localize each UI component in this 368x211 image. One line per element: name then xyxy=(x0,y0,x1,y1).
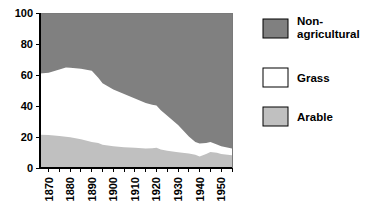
y-axis: 020406080100 xyxy=(15,7,40,174)
x-axis: 187018801890190019101920193019401950 xyxy=(40,168,232,201)
y-tick-label: 0 xyxy=(27,162,33,174)
y-tick-label: 100 xyxy=(15,7,33,19)
x-tick-label: 1870 xyxy=(43,177,55,201)
x-tick-label: 1940 xyxy=(194,177,206,201)
legend-item-label: Arable xyxy=(297,111,333,123)
x-tick-label: 1910 xyxy=(129,177,141,201)
legend-swatch-non-agricultural xyxy=(263,19,288,38)
x-tick-label: 1950 xyxy=(215,177,227,201)
y-tick-label: 80 xyxy=(21,38,33,50)
plot-area xyxy=(40,13,232,168)
x-tick-label: 1880 xyxy=(64,177,76,201)
legend-swatch-grass xyxy=(263,68,288,87)
y-axis-tick-labels: 020406080100 xyxy=(15,7,33,174)
legend-swatch-arable xyxy=(263,107,288,126)
x-axis-minor-ticks xyxy=(49,168,232,172)
legend-item-label: Non-agricultural xyxy=(297,15,360,40)
x-axis-tick-labels: 187018801890190019101920193019401950 xyxy=(43,177,228,201)
x-tick-label: 1900 xyxy=(107,177,119,201)
legend-item: Grass xyxy=(263,68,330,87)
legend-item: Arable xyxy=(263,107,333,126)
y-tick-label: 20 xyxy=(21,131,33,143)
x-tick-label: 1890 xyxy=(86,177,98,201)
stacked-area-chart: 020406080100 187018801890190019101920193… xyxy=(0,0,368,211)
x-tick-label: 1930 xyxy=(172,177,184,201)
x-tick-label: 1920 xyxy=(150,177,162,201)
legend-item: Non-agricultural xyxy=(263,15,360,40)
y-tick-label: 40 xyxy=(21,100,33,112)
chart-legend: Non-agriculturalGrassArable xyxy=(263,15,360,126)
y-axis-ticks xyxy=(36,13,40,168)
y-tick-label: 60 xyxy=(21,69,33,81)
legend-item-label: Grass xyxy=(297,72,330,84)
